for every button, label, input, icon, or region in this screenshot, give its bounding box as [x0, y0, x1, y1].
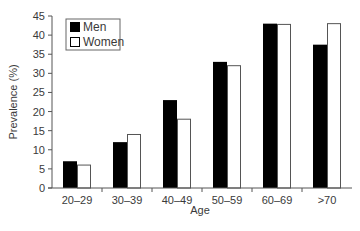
bar-men-5 — [313, 45, 327, 188]
bar-women-4 — [278, 24, 291, 188]
y-tick-label: 15 — [33, 125, 45, 137]
y-tick-label: 40 — [33, 29, 45, 41]
legend-swatch-women — [71, 38, 80, 47]
x-axis-title: Age — [190, 204, 210, 216]
legend: MenWomen — [66, 19, 124, 50]
bar-women-5 — [328, 24, 341, 188]
bar-women-3 — [228, 66, 241, 188]
bar-chart: 05101520253035404520–2930–3940–4950–5960… — [0, 0, 360, 231]
x-tick-label: 30–39 — [112, 194, 143, 206]
bar-women-2 — [178, 119, 191, 188]
x-tick-label: 60–69 — [262, 194, 293, 206]
x-tick-label: 50–59 — [212, 194, 243, 206]
bar-men-4 — [263, 24, 277, 188]
y-tick-label: 20 — [33, 106, 45, 118]
y-tick-label: 45 — [33, 10, 45, 22]
bar-men-2 — [163, 100, 177, 188]
y-tick-label: 10 — [33, 144, 45, 156]
x-tick-label: 20–29 — [62, 194, 93, 206]
y-tick-label: 35 — [33, 48, 45, 60]
bar-men-0 — [63, 161, 77, 188]
bar-women-1 — [128, 134, 141, 188]
legend-label-men: Men — [83, 20, 106, 34]
y-tick-label: 0 — [39, 182, 45, 194]
x-tick-label: 40–49 — [162, 194, 193, 206]
legend-label-women: Women — [83, 35, 124, 49]
y-tick-label: 30 — [33, 67, 45, 79]
bar-men-1 — [113, 142, 127, 188]
bar-women-0 — [78, 165, 91, 188]
y-axis-title: Prevalence (%) — [7, 64, 19, 139]
legend-swatch-men — [71, 23, 80, 32]
y-tick-label: 5 — [39, 163, 45, 175]
y-tick-label: 25 — [33, 86, 45, 98]
bar-men-3 — [213, 62, 227, 188]
x-tick-label: >70 — [318, 194, 337, 206]
